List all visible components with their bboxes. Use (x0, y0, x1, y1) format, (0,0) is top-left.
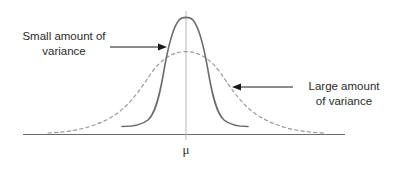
large-variance-label-line1: Large amount (296, 79, 392, 94)
large-variance-arrow (232, 83, 293, 90)
small-variance-label-line1: Small amount of (14, 29, 114, 44)
large-variance-label: Large amount of variance (296, 79, 392, 109)
small-variance-label: Small amount of variance (14, 29, 114, 59)
variance-normal-curves-figure: Small amount of variance Large amount of… (0, 0, 395, 175)
narrow-solid-curve (122, 17, 248, 126)
small-variance-label-line2: variance (14, 44, 114, 59)
small-variance-arrow (110, 43, 167, 50)
large-variance-label-line2: of variance (296, 94, 392, 109)
mean-axis-label: μ (170, 142, 202, 158)
